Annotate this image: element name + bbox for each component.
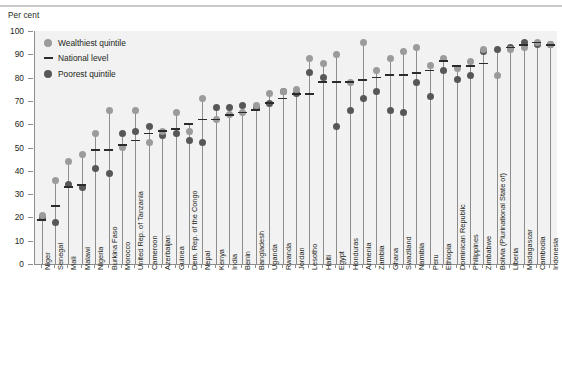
data-point-wealthiest[interactable] [333, 51, 340, 58]
data-point-national[interactable] [439, 60, 448, 62]
data-point-poorest[interactable] [347, 107, 354, 114]
data-point-wealthiest[interactable] [494, 72, 501, 79]
x-axis-label: Indonesia [552, 238, 559, 270]
data-point-national[interactable] [251, 109, 260, 111]
data-point-wealthiest[interactable] [253, 102, 260, 109]
data-point-poorest[interactable] [454, 76, 461, 83]
data-point-national[interactable] [399, 74, 408, 76]
data-point-poorest[interactable] [52, 219, 59, 226]
data-point-national[interactable] [171, 128, 180, 130]
data-point-wealthiest[interactable] [106, 107, 113, 114]
data-point-national[interactable] [51, 205, 60, 207]
data-point-national[interactable] [466, 65, 475, 67]
data-point-wealthiest[interactable] [92, 130, 99, 137]
data-point-wealthiest[interactable] [65, 158, 72, 165]
x-axis-label: Burkina Faso [111, 226, 118, 270]
data-stem [403, 52, 404, 264]
data-point-poorest[interactable] [146, 123, 153, 130]
data-point-national[interactable] [77, 184, 86, 186]
data-point-poorest[interactable] [400, 109, 407, 116]
data-point-national[interactable] [385, 74, 394, 76]
x-axis-label: Nepal [204, 251, 211, 270]
data-point-wealthiest[interactable] [400, 48, 407, 55]
data-point-poorest[interactable] [360, 95, 367, 102]
data-point-poorest[interactable] [199, 139, 206, 146]
data-point-wealthiest[interactable] [199, 95, 206, 102]
data-point-national[interactable] [104, 149, 113, 151]
x-axis-label: Rwanda [285, 243, 292, 270]
data-point-wealthiest[interactable] [293, 86, 300, 93]
data-point-poorest[interactable] [306, 69, 313, 76]
data-point-national[interactable] [211, 119, 220, 121]
data-point-wealthiest[interactable] [186, 128, 193, 135]
data-point-national[interactable] [546, 44, 555, 46]
data-point-national[interactable] [292, 93, 301, 95]
data-point-wealthiest[interactable] [360, 39, 367, 46]
data-point-national[interactable] [452, 65, 461, 67]
data-point-poorest[interactable] [92, 165, 99, 172]
data-point-wealthiest[interactable] [79, 151, 86, 158]
x-axis-tick [523, 265, 524, 268]
data-stem [283, 92, 284, 264]
data-point-poorest[interactable] [132, 128, 139, 135]
x-axis-tick [362, 265, 363, 268]
data-point-poorest[interactable] [106, 170, 113, 177]
data-point-national[interactable] [91, 149, 100, 151]
data-point-national[interactable] [332, 81, 341, 83]
data-point-national[interactable] [318, 81, 327, 83]
data-point-poorest[interactable] [440, 67, 447, 74]
data-point-poorest[interactable] [387, 107, 394, 114]
data-point-national[interactable] [198, 119, 207, 121]
data-point-wealthiest[interactable] [427, 62, 434, 69]
data-point-wealthiest[interactable] [173, 109, 180, 116]
data-point-national[interactable] [372, 77, 381, 79]
data-point-wealthiest[interactable] [467, 58, 474, 65]
data-point-poorest[interactable] [427, 93, 434, 100]
data-point-national[interactable] [37, 219, 46, 221]
data-point-national[interactable] [532, 42, 541, 44]
data-point-poorest[interactable] [333, 123, 340, 130]
data-point-poorest[interactable] [413, 79, 420, 86]
data-point-poorest[interactable] [373, 88, 380, 95]
data-point-national[interactable] [265, 102, 274, 104]
data-point-national[interactable] [345, 81, 354, 83]
data-point-poorest[interactable] [467, 72, 474, 79]
data-point-wealthiest[interactable] [413, 44, 420, 51]
data-point-wealthiest[interactable] [52, 177, 59, 184]
data-point-wealthiest[interactable] [387, 55, 394, 62]
data-point-poorest[interactable] [173, 130, 180, 137]
data-point-national[interactable] [144, 133, 153, 135]
data-point-poorest[interactable] [119, 130, 126, 137]
data-point-national[interactable] [238, 112, 247, 114]
data-point-wealthiest[interactable] [132, 107, 139, 114]
data-point-poorest[interactable] [226, 104, 233, 111]
data-point-wealthiest[interactable] [306, 55, 313, 62]
data-point-national[interactable] [412, 72, 421, 74]
data-point-national[interactable] [118, 144, 127, 146]
data-point-national[interactable] [184, 123, 193, 125]
data-point-national[interactable] [479, 63, 488, 65]
data-point-national[interactable] [131, 140, 140, 142]
data-point-national[interactable] [64, 186, 73, 188]
data-point-poorest[interactable] [186, 137, 193, 144]
data-point-national[interactable] [225, 114, 234, 116]
data-point-wealthiest[interactable] [320, 60, 327, 67]
data-point-national[interactable] [305, 93, 314, 95]
data-point-wealthiest[interactable] [373, 67, 380, 74]
data-point-national[interactable] [358, 79, 367, 81]
data-point-national[interactable] [506, 47, 515, 49]
y-axis-tick-label: 90 [2, 49, 24, 59]
data-point-poorest[interactable] [213, 104, 220, 111]
data-point-national[interactable] [158, 130, 167, 132]
data-point-poorest[interactable] [494, 46, 501, 53]
data-point-poorest[interactable] [320, 74, 327, 81]
data-point-national[interactable] [278, 98, 287, 100]
data-point-wealthiest[interactable] [280, 88, 287, 95]
data-point-wealthiest[interactable] [266, 90, 273, 97]
data-point-national[interactable] [519, 44, 528, 46]
x-axis-label: Dominican Republic [459, 204, 466, 270]
data-point-national[interactable] [425, 70, 434, 72]
data-point-poorest[interactable] [239, 102, 246, 109]
data-point-wealthiest[interactable] [146, 139, 153, 146]
data-point-wealthiest[interactable] [39, 212, 46, 219]
